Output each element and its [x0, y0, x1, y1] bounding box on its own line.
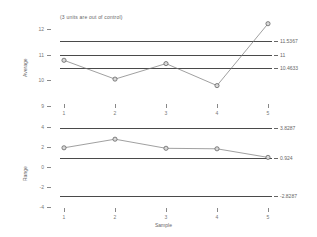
- range-chart-series: [0, 0, 317, 237]
- range-chart-point[interactable]: [266, 155, 270, 159]
- range-chart-point[interactable]: [164, 146, 168, 150]
- control-chart-page: (3 units are out of control)Average12111…: [0, 0, 317, 237]
- x-axis-label: Sample: [155, 222, 172, 228]
- range-chart-point[interactable]: [215, 147, 219, 151]
- range-chart-point[interactable]: [62, 146, 66, 150]
- range-chart-point[interactable]: [113, 137, 117, 141]
